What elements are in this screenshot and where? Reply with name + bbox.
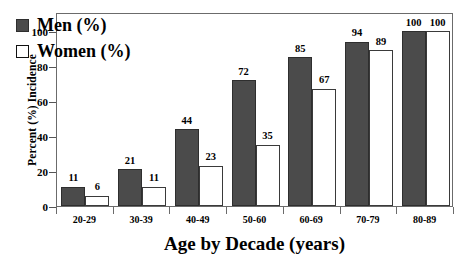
bar-value-label: 11 [136,173,172,184]
x-tick-mark [396,207,397,214]
legend-label-men: Men (%) [37,16,106,34]
x-tick-mark [113,207,114,214]
legend-swatch-women-icon [16,45,29,58]
legend-swatch-men-icon [16,19,29,32]
bar-value-label: 35 [250,131,286,142]
x-tick-label-20-29: 20-29 [56,215,113,225]
legend-item-men: Men (%) [16,12,131,38]
y-tick-mark [49,102,56,103]
y-tick-mark [49,172,56,173]
bar-women-20-29 [85,196,109,207]
x-tick-mark [283,207,284,214]
bar-value-label: 67 [306,75,342,86]
bar-value-label: 21 [112,156,148,167]
x-tick-label-50-60: 50-60 [226,215,283,225]
bar-value-label: 85 [282,44,318,55]
x-tick-mark [453,207,454,214]
bar-value-label: 100 [420,18,456,29]
bar-value-label: 23 [193,152,229,163]
bar-women-30-39 [142,187,166,206]
bar-value-label: 44 [169,116,205,127]
y-tick-label: 20 [22,167,48,178]
x-tick-mark [226,207,227,214]
chart-legend: Men (%) Women (%) [16,12,131,64]
bar-value-label: 72 [226,67,262,78]
bar-value-label: 6 [79,182,115,193]
bar-men-80-89 [402,31,426,206]
x-tick-label-70-79: 70-79 [340,215,397,225]
bar-value-label: 89 [363,37,399,48]
bar-women-60-69 [312,89,336,206]
x-tick-label-30-39: 30-39 [113,215,170,225]
y-tick-label: 0 [22,202,48,213]
legend-item-women: Women (%) [16,38,131,64]
y-tick-mark [49,32,56,33]
x-tick-mark [169,207,170,214]
bar-women-50-60 [256,145,280,206]
y-tick-label: 60 [22,97,48,108]
y-tick-mark [49,67,56,68]
x-tick-label-80-89: 80-89 [396,215,453,225]
legend-label-women: Women (%) [37,42,131,60]
x-tick-label-40-49: 40-49 [169,215,226,225]
y-tick-mark [49,137,56,138]
x-tick-mark [340,207,341,214]
bar-men-70-79 [345,42,369,207]
x-tick-mark [56,207,57,214]
bar-men-40-49 [175,129,199,206]
x-axis-title: Age by Decade (years) [56,233,453,255]
y-tick-label: 40 [22,132,48,143]
y-tick-mark [49,207,56,208]
bar-chart-figure: Percent (%) Incidence 020406080100 11621… [0,0,472,273]
bar-women-70-79 [369,50,393,206]
bar-women-40-49 [199,166,223,206]
x-tick-label-60-69: 60-69 [283,215,340,225]
bar-men-50-60 [232,80,256,206]
bar-women-80-89 [426,31,450,206]
